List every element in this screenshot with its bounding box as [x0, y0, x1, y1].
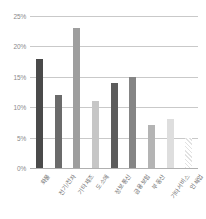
- bar[interactable]: [167, 119, 174, 168]
- bar-slot: [142, 16, 161, 168]
- bar-chart: 0%5%10%15%20%25% 화물전기/전자기타제조도소매정보통신금융보험부…: [0, 0, 206, 219]
- x-label-slot: 화물: [30, 170, 49, 219]
- x-label-slot: 기타서비스: [161, 170, 180, 219]
- bar[interactable]: [111, 83, 118, 168]
- bar-slot: [30, 16, 49, 168]
- bar-slot: [49, 16, 68, 168]
- bar-slot: [123, 16, 142, 168]
- bar-series: [30, 16, 198, 168]
- x-label-slot: 인쇄업: [179, 170, 198, 219]
- bar[interactable]: [148, 125, 155, 168]
- bar[interactable]: [73, 28, 80, 168]
- y-axis-tick-label: 0%: [17, 165, 26, 172]
- bar[interactable]: [55, 95, 62, 168]
- x-label-slot: 부동산: [142, 170, 161, 219]
- bar-slot: [67, 16, 86, 168]
- bar-slot: [105, 16, 124, 168]
- bar[interactable]: [36, 59, 43, 168]
- y-axis-tick-label: 25%: [14, 13, 26, 20]
- x-label-slot: 금융보험: [123, 170, 142, 219]
- x-label-slot: 정보통신: [105, 170, 124, 219]
- gridline-0pct: [30, 168, 198, 169]
- bar[interactable]: [185, 138, 192, 168]
- y-axis-tick-label: 20%: [14, 43, 26, 50]
- bar-slot: [86, 16, 105, 168]
- x-label-slot: 기타제조: [67, 170, 86, 219]
- y-axis-tick-label: 10%: [14, 104, 26, 111]
- bar[interactable]: [92, 101, 99, 168]
- x-label-slot: 전기/전자: [49, 170, 68, 219]
- bar-slot: [179, 16, 198, 168]
- x-axis-label: 인쇄업: [187, 172, 204, 191]
- y-axis-tick-label: 5%: [17, 134, 26, 141]
- x-label-slot: 도소매: [86, 170, 105, 219]
- x-axis-category-labels: 화물전기/전자기타제조도소매정보통신금융보험부동산기타서비스인쇄업: [30, 170, 198, 219]
- y-axis-tick-label: 15%: [14, 73, 26, 80]
- bar-slot: [161, 16, 180, 168]
- plot-area: 0%5%10%15%20%25%: [30, 16, 198, 168]
- bar[interactable]: [129, 77, 136, 168]
